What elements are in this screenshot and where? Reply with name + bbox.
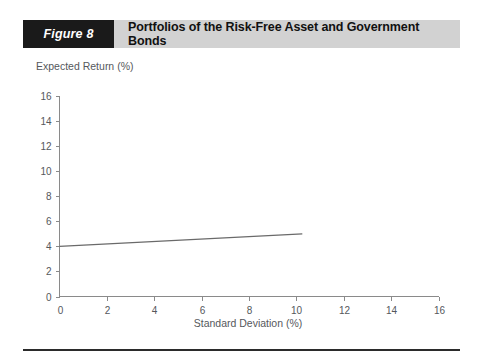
x-tick-label: 16	[434, 305, 446, 316]
x-tick-label: 12	[339, 305, 351, 316]
y-axis-title-text: Expected Return (%)	[36, 60, 133, 72]
y-tick-label: 12	[40, 141, 52, 152]
x-axis-title-text: Standard Deviation (%)	[194, 317, 303, 329]
x-tick-label: 0	[58, 305, 64, 316]
x-tick-label: 2	[105, 305, 111, 316]
x-tick-label: 8	[247, 305, 253, 316]
figure-header-bar: Figure 8 Portfolios of the Risk-Free Ass…	[23, 20, 460, 48]
x-tick-label: 6	[200, 305, 206, 316]
x-axis-ticks: 0246810121416	[58, 297, 446, 316]
y-tick-label: 14	[40, 116, 52, 127]
y-tick-label: 6	[46, 216, 52, 227]
chart-container: Expected Return (%) Standard Deviation (…	[0, 48, 484, 348]
data-line-capital-allocation-line	[60, 234, 303, 247]
y-axis-ticks: 0246810121416	[40, 91, 59, 303]
y-tick-label: 0	[46, 292, 52, 303]
bottom-divider	[23, 349, 460, 351]
figure-page: Figure 8 Portfolios of the Risk-Free Ass…	[0, 0, 484, 364]
x-tick-label: 10	[291, 305, 303, 316]
figure-title: Portfolios of the Risk-Free Asset and Go…	[114, 20, 460, 48]
x-tick-label: 14	[386, 305, 398, 316]
x-tick-label: 4	[152, 305, 158, 316]
y-tick-label: 2	[46, 266, 52, 277]
y-tick-label: 16	[40, 91, 52, 102]
y-tick-label: 10	[40, 166, 52, 177]
y-tick-label: 8	[46, 191, 52, 202]
x-axis-title: Standard Deviation (%)	[194, 317, 303, 329]
y-axis-title: Expected Return (%)	[36, 60, 133, 72]
y-tick-label: 4	[46, 241, 52, 252]
figure-number-badge: Figure 8	[23, 20, 114, 48]
line-chart: Expected Return (%) Standard Deviation (…	[0, 48, 484, 348]
chart-series	[60, 234, 303, 247]
